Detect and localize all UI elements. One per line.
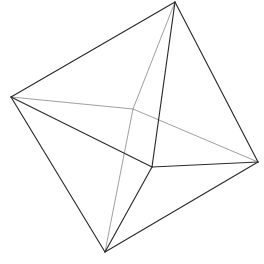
edge-bottom-back [105, 109, 133, 252]
edge-bottom-front [105, 167, 152, 252]
edge-top-back [133, 2, 175, 109]
octahedron-wireframe [0, 0, 264, 264]
vertex-marker-group [10, 1, 258, 252]
edge-left-back [11, 97, 133, 109]
edge-right-bottom [105, 162, 258, 252]
figure-canvas [0, 0, 264, 264]
edge-top-right [175, 2, 258, 162]
edge-right-front [152, 162, 258, 167]
edge-top-front [152, 2, 175, 167]
visible-edge-group [11, 2, 258, 252]
edge-right-back [133, 109, 258, 162]
hidden-edge-group [11, 2, 258, 252]
edge-top-left [11, 2, 175, 97]
